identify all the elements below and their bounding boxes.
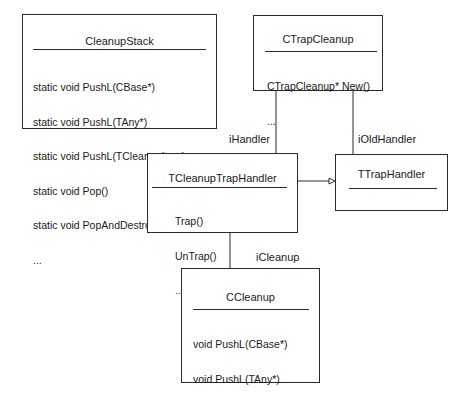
member: ...	[267, 116, 370, 128]
member: CTrapCleanup* New()	[267, 81, 370, 93]
class-name: CCleanup	[182, 291, 319, 303]
divider	[152, 187, 287, 188]
class-ttrap-handler: TTrapHandler	[335, 154, 448, 211]
class-ccleanup: CCleanup void PushL(CBase*) void PushL(T…	[181, 268, 320, 383]
member: Trap()	[175, 216, 217, 228]
class-name: TTrapHandler	[336, 168, 447, 180]
member: ...	[33, 255, 185, 267]
divider	[349, 188, 437, 189]
member: static void PushL(TAny*)	[33, 117, 185, 129]
member: void PushL(CBase*)	[193, 339, 318, 351]
class-name: CleanupStack	[23, 35, 216, 47]
member-list: CTrapCleanup* New() ...	[267, 58, 370, 150]
class-ctrap-cleanup: CTrapCleanup CTrapCleanup* New() ...	[253, 15, 383, 91]
member: static void PushL(CBase*)	[33, 82, 185, 94]
class-name: CTrapCleanup	[254, 33, 382, 45]
iold-handler-label: iOldHandler	[358, 133, 416, 145]
member-list: void PushL(CBase*) void PushL(TAny*) voi…	[193, 316, 318, 400]
divider	[33, 49, 206, 50]
ihandler-label: iHandler	[229, 133, 270, 145]
class-cleanup-stack: CleanupStack static void PushL(CBase*) s…	[22, 14, 217, 129]
class-name: TCleanupTrapHandler	[148, 172, 297, 184]
member: UnTrap()	[175, 251, 217, 263]
class-tcleanup-trap-handler: TCleanupTrapHandler Trap() UnTrap() ...	[147, 153, 298, 233]
divider	[193, 309, 309, 310]
divider	[265, 51, 377, 52]
member: void PushL(TAny*)	[193, 374, 318, 386]
icleanup-label: iCleanup	[256, 251, 299, 263]
